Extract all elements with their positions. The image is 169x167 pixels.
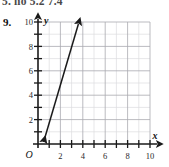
origin-letter: O bbox=[25, 149, 32, 160]
x-tick-label-6: 6 bbox=[103, 151, 107, 161]
y-tick-label-4: 4 bbox=[29, 90, 34, 100]
x-tick-label-10: 10 bbox=[146, 151, 155, 161]
x-tick-label-4: 4 bbox=[81, 151, 86, 161]
coordinate-graph-figure: 10 8 6 4 2 2 4 6 8 10 y x O bbox=[0, 0, 169, 167]
x-axis-letter: x bbox=[152, 130, 158, 141]
x-tick-label-8: 8 bbox=[125, 151, 129, 161]
coordinate-plane-svg: 10 8 6 4 2 2 4 6 8 10 y x O bbox=[0, 0, 169, 167]
y-axis-letter: y bbox=[43, 15, 49, 26]
y-tick-label-2: 2 bbox=[29, 115, 33, 125]
y-tick-label-6: 6 bbox=[29, 66, 33, 76]
y-tick-label-8: 8 bbox=[29, 42, 33, 52]
x-tick-label-2: 2 bbox=[58, 151, 62, 161]
y-tick-label-10: 10 bbox=[25, 17, 34, 27]
